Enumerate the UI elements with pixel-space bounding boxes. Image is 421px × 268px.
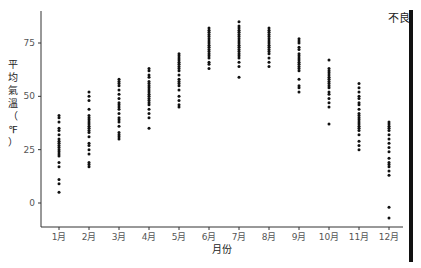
data-point — [208, 61, 211, 64]
data-point — [268, 61, 271, 64]
data-point — [268, 27, 271, 30]
data-point — [388, 161, 391, 164]
data-point — [178, 52, 181, 55]
data-point — [208, 67, 211, 70]
data-point — [388, 174, 391, 177]
data-point — [388, 170, 391, 173]
data-point — [358, 82, 361, 85]
data-point — [238, 24, 241, 27]
data-point — [58, 114, 61, 117]
x-tick-label: 9月 — [292, 232, 307, 242]
data-point — [88, 142, 91, 145]
data-point — [388, 138, 391, 141]
data-point — [118, 78, 121, 81]
x-tick-label: 10月 — [319, 232, 339, 242]
svg-text:均: 均 — [8, 72, 18, 83]
data-point — [268, 65, 271, 68]
data-point — [118, 93, 121, 96]
data-point — [58, 138, 61, 141]
data-point — [388, 206, 391, 209]
data-point — [298, 78, 301, 81]
data-point — [148, 127, 151, 130]
data-point — [148, 108, 151, 111]
data-point — [298, 37, 301, 40]
data-point — [148, 67, 151, 70]
data-point — [328, 101, 331, 104]
data-point — [148, 112, 151, 115]
data-point — [58, 133, 61, 136]
x-axis-title: 月份 — [212, 244, 232, 255]
data-point — [268, 56, 271, 59]
data-point — [208, 27, 211, 30]
y-axis-title: 平均氣溫（℉） — [8, 59, 18, 148]
data-point — [58, 120, 61, 123]
x-axis-ticks: 1月2月3月4月5月6月7月8月9月10月11月12月 — [52, 227, 400, 242]
data-point — [88, 148, 91, 151]
svg-text:（: （ — [8, 111, 18, 122]
data-point — [358, 95, 361, 98]
svg-text:平: 平 — [8, 59, 18, 70]
x-tick-label: 5月 — [172, 232, 187, 242]
x-tick-label: 6月 — [202, 232, 217, 242]
data-point — [118, 125, 121, 128]
data-point — [178, 103, 181, 106]
data-point — [88, 99, 91, 102]
data-point — [358, 112, 361, 115]
data-point — [238, 61, 241, 64]
x-tick-label: 7月 — [232, 232, 247, 242]
data-point — [388, 150, 391, 153]
data-point — [118, 112, 121, 115]
data-point — [358, 101, 361, 104]
data-point — [148, 74, 151, 77]
data-point — [238, 76, 241, 79]
data-point — [178, 74, 181, 77]
x-tick-label: 12月 — [379, 232, 399, 242]
x-tick-label: 11月 — [349, 232, 369, 242]
data-point — [58, 178, 61, 181]
data-point — [388, 142, 391, 145]
y-tick-label: 50 — [24, 91, 36, 101]
data-point — [148, 116, 151, 119]
svg-text:℉: ℉ — [8, 124, 18, 135]
corner-label: 不良 — [388, 9, 410, 25]
data-point — [58, 127, 61, 130]
data-point — [88, 152, 91, 155]
data-point — [328, 59, 331, 62]
data-point — [358, 144, 361, 147]
data-point — [358, 91, 361, 94]
data-point — [298, 91, 301, 94]
data-point — [178, 99, 181, 102]
svg-text:）: ） — [8, 137, 18, 148]
data-point — [118, 101, 121, 104]
data-point — [118, 131, 121, 134]
data-point — [178, 88, 181, 91]
data-point — [328, 91, 331, 94]
data-points — [58, 20, 391, 219]
data-point — [88, 91, 91, 94]
data-point — [388, 216, 391, 219]
data-point — [118, 97, 121, 100]
scatter-chart: 0255075 1月2月3月4月5月6月7月8月9月10月11月12月 月份 平… — [0, 0, 421, 268]
data-point — [388, 157, 391, 160]
data-point — [328, 106, 331, 109]
data-point — [358, 133, 361, 136]
svg-text:氣: 氣 — [8, 84, 18, 96]
data-point — [358, 86, 361, 89]
data-point — [328, 97, 331, 100]
data-point — [238, 20, 241, 23]
x-tick-label: 1月 — [52, 232, 67, 242]
y-tick-label: 75 — [24, 38, 35, 48]
data-point — [238, 65, 241, 68]
y-tick-label: 25 — [24, 145, 35, 155]
data-point — [328, 67, 331, 70]
data-point — [358, 108, 361, 111]
data-point — [58, 161, 61, 164]
svg-text:溫: 溫 — [8, 98, 18, 109]
data-point — [58, 182, 61, 185]
data-point — [328, 123, 331, 126]
data-point — [118, 88, 121, 91]
data-point — [358, 140, 361, 143]
x-tick-label: 2月 — [82, 232, 97, 242]
x-tick-label: 4月 — [142, 232, 157, 242]
side-divider-bar — [409, 10, 413, 262]
